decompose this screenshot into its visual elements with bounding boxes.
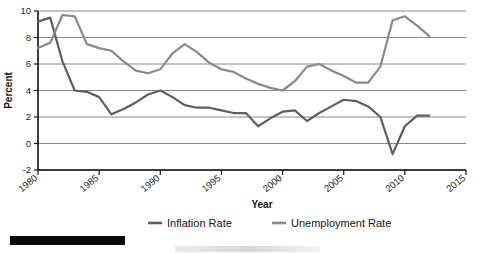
y-axis-title: Percent <box>3 71 14 108</box>
x-axis-title: Year <box>251 199 272 210</box>
x-tick-label: 1995 <box>199 172 222 194</box>
y-tick-label: 4 <box>26 85 31 96</box>
x-tick-label: 2000 <box>261 172 284 194</box>
y-tick-label: 6 <box>26 58 31 69</box>
legend-label-inflation: Inflation Rate <box>167 217 232 229</box>
footer-black-bar <box>10 236 125 245</box>
x-tick-label: 2005 <box>322 172 345 194</box>
x-tick-label: 1990 <box>138 172 161 194</box>
y-axis: -20246810 <box>20 5 38 175</box>
x-axis: 19801985199019952000200520102015 <box>16 170 467 194</box>
x-tick-label: 1985 <box>77 172 100 194</box>
x-tick-label: 2015 <box>444 172 467 194</box>
gridlines <box>38 11 466 170</box>
y-tick-label: 2 <box>26 111 31 122</box>
chart-figure: -202468101980198519901995200020052010201… <box>0 0 489 253</box>
line-chart: -202468101980198519901995200020052010201… <box>0 0 489 253</box>
series-line-inflation <box>38 18 429 154</box>
legend: Inflation RateUnemployment Rate <box>148 217 391 229</box>
y-tick-label: 10 <box>20 5 31 16</box>
series-line-unemployment <box>38 15 429 91</box>
y-tick-label: 0 <box>26 138 31 149</box>
legend-label-unemployment: Unemployment Rate <box>291 217 391 229</box>
footer-source-smudge <box>175 246 320 252</box>
x-tick-label: 1980 <box>16 172 39 194</box>
x-tick-label: 2010 <box>383 172 406 194</box>
y-tick-label: 8 <box>26 32 31 43</box>
